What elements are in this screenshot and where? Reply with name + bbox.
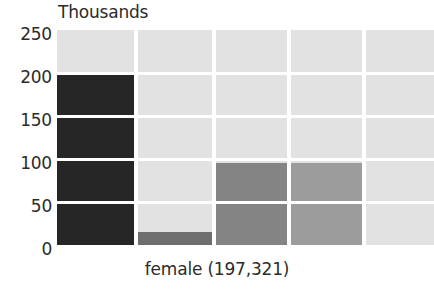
horizontal-gridline-150 [57, 115, 434, 118]
x-axis-label: female (197,321) [0, 258, 434, 280]
y-axis-tick-150: 150 [0, 111, 52, 129]
chart-title: Thousands [58, 1, 148, 23]
y-axis-tick-250: 250 [0, 25, 52, 43]
bar-fill-2 [138, 232, 212, 245]
y-axis-tick-200: 200 [0, 68, 52, 86]
horizontal-gridline-100 [57, 158, 434, 161]
bar-column-3[interactable] [216, 30, 287, 245]
bar-column-2[interactable] [138, 30, 212, 245]
bar-fill-3 [216, 163, 287, 245]
vertical-gridline-3 [287, 30, 291, 245]
horizontal-gridline-50 [57, 201, 434, 204]
bar-column-4[interactable] [291, 30, 362, 245]
bar-column-5[interactable] [366, 30, 434, 245]
plot-area [57, 30, 434, 245]
vertical-gridline-1 [134, 30, 138, 245]
y-axis-tick-0: 0 [0, 240, 52, 258]
vertical-gridline-2 [212, 30, 216, 245]
bar-column-1[interactable] [57, 30, 134, 245]
bar-fill-4 [291, 163, 362, 245]
horizontal-gridline-200 [57, 72, 434, 75]
vertical-gridline-4 [362, 30, 366, 245]
y-axis: 250 200 150 100 50 0 [0, 0, 52, 297]
y-axis-tick-100: 100 [0, 154, 52, 172]
y-axis-tick-50: 50 [0, 197, 52, 215]
chart-container: Thousands 250 200 150 100 50 0 [0, 0, 434, 297]
